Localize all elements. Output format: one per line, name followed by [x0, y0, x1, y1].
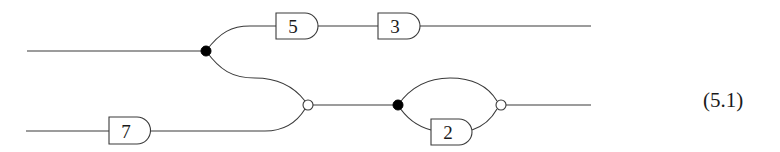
wire-split-to-gate-2: [398, 105, 431, 130]
split-node-right: [393, 100, 403, 110]
wire-split-to-gate-5: [206, 26, 276, 51]
wire-gate-2-to-merge: [472, 109, 497, 130]
svg-text:5: 5: [288, 16, 298, 37]
split-node-top: [201, 46, 211, 56]
svg-text:7: 7: [121, 121, 131, 142]
svg-text:2: 2: [443, 122, 453, 143]
equation-number: (5.1): [703, 88, 743, 113]
circuit-diagram: 5 3 7 2: [0, 0, 780, 152]
wire-upper-arc: [398, 78, 497, 105]
wire-split-to-merge: [206, 51, 305, 101]
gate-3: 3: [378, 13, 420, 39]
svg-text:3: 3: [390, 16, 400, 37]
gate-7: 7: [109, 117, 151, 144]
gate-2: 2: [431, 119, 472, 145]
merge-node-right: [496, 100, 506, 110]
gate-5: 5: [276, 13, 318, 39]
merge-node-middle: [303, 100, 313, 110]
wire-gate-7-to-merge: [150, 109, 305, 131]
